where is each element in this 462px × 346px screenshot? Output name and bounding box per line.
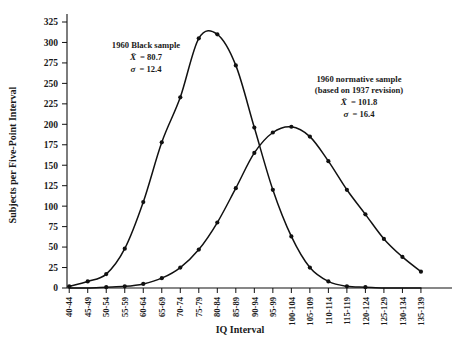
- series-curve-1: [69, 127, 421, 288]
- x-tick-label-85-89: 85-89: [231, 297, 241, 317]
- y-tick-label-250: 250: [44, 79, 59, 89]
- y-tick-label-50: 50: [49, 242, 59, 252]
- annotation-black-title: 1960 Black sample: [112, 40, 180, 50]
- data-point-0-11: [271, 188, 275, 192]
- data-point-0-15: [345, 284, 349, 288]
- x-tick-label-45-49: 45-49: [83, 297, 93, 317]
- y-axis-title: Subjects per Five-Point Interval: [7, 86, 18, 223]
- x-axis-title: IQ Interval: [216, 324, 265, 335]
- annotation-black-mean-value: = 80.7: [140, 52, 163, 62]
- x-tick-label-95-99: 95-99: [268, 297, 278, 317]
- mean-symbol-normative: X̄: [340, 97, 348, 107]
- data-point-1-7: [197, 247, 201, 251]
- y-tick-label-150: 150: [44, 161, 59, 171]
- series-1: [69, 125, 423, 290]
- annotation-black-sd: σ= 12.4: [130, 64, 162, 74]
- data-point-1-4: [141, 282, 145, 286]
- data-point-1-3: [123, 284, 127, 288]
- y-tick-label-275: 275: [44, 58, 59, 68]
- data-point-1-13: [308, 134, 312, 138]
- data-point-0-16: [363, 285, 367, 289]
- data-point-1-8: [215, 220, 219, 224]
- y-tick-label-225: 225: [44, 99, 59, 109]
- annotation-black-sd-value: = 12.4: [139, 64, 162, 74]
- y-tick-label-300: 300: [44, 38, 59, 48]
- x-tick-label-125-129: 125-129: [379, 297, 389, 326]
- y-tick-label-100: 100: [44, 202, 59, 212]
- data-series-group: [67, 31, 423, 290]
- annotation-normative-sd: σ= 16.4: [343, 109, 375, 119]
- annotation-black-mean: X̄= 80.7: [129, 52, 163, 62]
- iq-distribution-chart: 0255075100125150175200225250275300325 40…: [0, 0, 462, 346]
- x-tick-label-80-84: 80-84: [213, 296, 223, 317]
- x-tick-label-55-59: 55-59: [120, 297, 130, 317]
- y-tick-label-125: 125: [44, 181, 59, 191]
- x-tick-label-100-104: 100-104: [287, 296, 297, 325]
- annotation-normative-sd-value: = 16.4: [352, 109, 375, 119]
- y-tick-label-175: 175: [44, 140, 59, 150]
- x-tick-label-105-109: 105-109: [305, 297, 315, 326]
- data-point-0-12: [289, 234, 293, 238]
- data-point-0-2: [104, 272, 108, 276]
- x-tick-label-40-44: 40-44: [64, 296, 74, 317]
- x-tick-label-75-79: 75-79: [194, 297, 204, 317]
- data-point-0-6: [178, 95, 182, 99]
- x-tick-label-90-94: 90-94: [250, 296, 260, 317]
- x-tick-label-110-114: 110-114: [324, 296, 334, 324]
- data-point-1-9: [234, 186, 238, 190]
- x-tick-label-70-74: 70-74: [175, 296, 185, 317]
- data-point-1-10: [252, 151, 256, 155]
- data-point-1-15: [345, 188, 349, 192]
- data-point-1-19: [419, 270, 423, 274]
- annotation-normative-title: 1960 normative sample: [317, 74, 402, 84]
- data-point-0-9: [234, 63, 238, 67]
- series-curve-0: [69, 31, 421, 288]
- data-point-0-13: [308, 265, 312, 269]
- data-point-1-17: [382, 237, 386, 241]
- data-point-0-10: [252, 125, 256, 129]
- x-tick-label-135-139: 135-139: [416, 297, 426, 326]
- y-tick-marks: [62, 22, 67, 288]
- x-tick-label-60-64: 60-64: [138, 296, 148, 317]
- x-axis: 40-4445-4950-5455-5960-6465-6970-7475-79…: [64, 288, 452, 326]
- data-point-1-6: [178, 265, 182, 269]
- chart-svg: 0255075100125150175200225250275300325 40…: [0, 0, 462, 346]
- x-tick-label-65-69: 65-69: [157, 297, 167, 317]
- x-tick-label-50-54: 50-54: [101, 296, 111, 317]
- y-tick-labels: 0255075100125150175200225250275300325: [44, 17, 59, 293]
- y-tick-label-0: 0: [53, 283, 58, 293]
- data-point-0-1: [86, 279, 90, 283]
- data-point-1-5: [160, 276, 164, 280]
- sigma-symbol-black: σ: [130, 64, 136, 74]
- data-point-0-4: [141, 200, 145, 204]
- series-0: [67, 31, 421, 290]
- data-point-0-7: [197, 36, 201, 40]
- sigma-symbol-normative: σ: [343, 109, 349, 119]
- x-tick-label-130-134: 130-134: [398, 296, 408, 325]
- annotation-black-sample: 1960 Black sample X̄= 80.7 σ= 12.4: [112, 40, 180, 74]
- data-point-1-16: [363, 212, 367, 216]
- annotation-normative-subtitle: (based on 1937 revision): [315, 85, 404, 95]
- mean-symbol-black: X̄: [129, 52, 137, 62]
- y-tick-label-325: 325: [44, 17, 59, 27]
- data-point-0-8: [215, 32, 219, 36]
- x-tick-labels: 40-4445-4950-5455-5960-6465-6970-7475-79…: [64, 296, 426, 325]
- annotation-normative-mean: X̄= 101.8: [340, 97, 378, 107]
- data-point-1-18: [400, 255, 404, 259]
- x-tick-marks: [69, 288, 421, 293]
- data-point-0-3: [123, 247, 127, 251]
- y-axis: 0255075100125150175200225250275300325: [44, 14, 67, 293]
- data-point-1-2: [104, 285, 108, 289]
- x-tick-label-115-119: 115-119: [342, 297, 352, 325]
- annotation-normative-sample: 1960 normative sample (based on 1937 rev…: [315, 74, 404, 119]
- y-tick-label-25: 25: [49, 263, 59, 273]
- x-tick-label-120-124: 120-124: [361, 296, 371, 325]
- y-tick-label-200: 200: [44, 120, 59, 130]
- data-point-0-14: [326, 279, 330, 283]
- data-point-1-11: [271, 130, 275, 134]
- data-point-1-12: [289, 125, 293, 129]
- data-point-1-14: [326, 159, 330, 163]
- data-point-0-5: [160, 140, 164, 144]
- y-tick-label-75: 75: [49, 222, 59, 232]
- annotation-normative-mean-value: = 101.8: [351, 97, 378, 107]
